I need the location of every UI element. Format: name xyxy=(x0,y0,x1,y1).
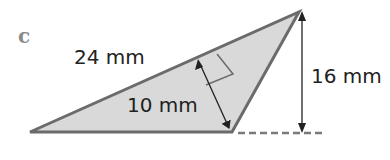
part-label: c xyxy=(18,26,30,46)
triangle-diagram: c 24 mm 10 mm 16 mm xyxy=(0,0,390,160)
height-length-label: 16 mm xyxy=(311,66,382,86)
height-arrowhead-bottom xyxy=(298,123,306,133)
altitude-length-label: 10 mm xyxy=(127,95,198,115)
hypotenuse-length-label: 24 mm xyxy=(74,47,145,67)
